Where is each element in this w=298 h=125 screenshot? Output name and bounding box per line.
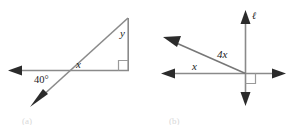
panel-a-angle-y-label: y bbox=[119, 27, 125, 39]
panel-b-diagram: x 4x ℓ (b) bbox=[149, 0, 298, 125]
panel-a-horizontal-line bbox=[8, 66, 129, 76]
arrow-down-icon bbox=[241, 92, 251, 106]
panel-a-caption: (a) bbox=[22, 116, 32, 125]
panel-a-angle-40-label: 40° bbox=[34, 74, 49, 85]
panel-b-line-label: ℓ bbox=[252, 10, 256, 21]
panel-a-right-angle-marker bbox=[119, 61, 129, 71]
arrow-right-icon bbox=[272, 69, 286, 79]
arrow-down-left-icon bbox=[30, 89, 48, 107]
panel-b-angle-4x-label: 4x bbox=[217, 48, 228, 60]
geometry-figure: 40° x y (a) x 4x ℓ (b) bbox=[0, 0, 298, 125]
panel-b-oblique-ray bbox=[163, 36, 246, 74]
arrow-left-icon bbox=[8, 66, 22, 76]
arrow-up-icon bbox=[241, 10, 251, 24]
panel-b-vertical-line bbox=[241, 10, 251, 106]
panel-b-horizontal-line bbox=[161, 69, 286, 79]
arrow-left-icon bbox=[161, 69, 175, 79]
panel-a-angle-x-label: x bbox=[75, 58, 81, 70]
panel-b-caption: (b) bbox=[169, 116, 180, 125]
panel-b-angle-x-label: x bbox=[191, 60, 197, 72]
arrow-up-left-icon bbox=[163, 36, 181, 47]
panel-a-diagram: 40° x y (a) bbox=[0, 0, 149, 125]
panel-b-right-angle-marker bbox=[246, 74, 256, 84]
